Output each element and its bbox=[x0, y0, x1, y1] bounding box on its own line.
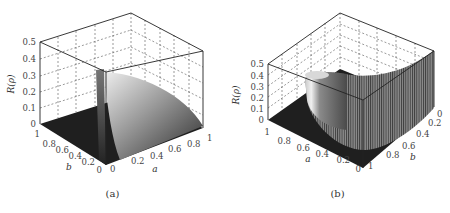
svg-text:0.2: 0.2 bbox=[250, 93, 264, 103]
plot-b: 0 0.1 0.2 0.3 0.4 0.5 R(ρ) 0 0.2 0.4 0.6… bbox=[225, 0, 450, 213]
a-label-a: a bbox=[152, 164, 157, 174]
svg-text:1: 1 bbox=[368, 161, 373, 171]
svg-text:1: 1 bbox=[35, 129, 40, 139]
caption-b: (b) bbox=[225, 188, 450, 199]
svg-text:0.1: 0.1 bbox=[22, 103, 36, 113]
svg-text:0.1: 0.1 bbox=[250, 104, 264, 114]
svg-text:0: 0 bbox=[31, 119, 36, 129]
z-ticks-a: 0 0.1 0.2 0.3 0.4 0.5 bbox=[22, 37, 36, 129]
svg-text:0.6: 0.6 bbox=[296, 143, 310, 153]
svg-text:0.5: 0.5 bbox=[250, 59, 264, 69]
svg-text:0.6: 0.6 bbox=[402, 141, 416, 151]
svg-text:0.8: 0.8 bbox=[187, 139, 201, 149]
panel-b: 0 0.1 0.2 0.3 0.4 0.5 R(ρ) 0 0.2 0.4 0.6… bbox=[225, 0, 450, 213]
svg-text:0.4: 0.4 bbox=[22, 54, 36, 64]
svg-text:0.8: 0.8 bbox=[386, 150, 400, 160]
z-label-a: R(ρ) bbox=[6, 74, 16, 95]
svg-text:0: 0 bbox=[97, 165, 102, 175]
svg-text:0.2: 0.2 bbox=[428, 118, 442, 128]
svg-text:0: 0 bbox=[356, 164, 361, 174]
svg-text:0: 0 bbox=[259, 115, 264, 125]
svg-text:0.2: 0.2 bbox=[131, 156, 145, 166]
a-label-b: a bbox=[305, 154, 310, 164]
svg-text:0: 0 bbox=[110, 164, 115, 174]
b-label-a: b bbox=[66, 162, 72, 172]
svg-text:0.4: 0.4 bbox=[250, 71, 264, 81]
svg-text:0.3: 0.3 bbox=[22, 71, 36, 81]
svg-text:0.4: 0.4 bbox=[315, 149, 329, 159]
svg-text:0.3: 0.3 bbox=[250, 82, 264, 92]
svg-text:0.4: 0.4 bbox=[68, 151, 82, 161]
svg-text:0.4: 0.4 bbox=[150, 151, 164, 161]
svg-text:0.6: 0.6 bbox=[55, 145, 69, 155]
svg-text:0.8: 0.8 bbox=[277, 136, 291, 146]
svg-text:0.6: 0.6 bbox=[168, 144, 182, 154]
plot-a: 0 0.1 0.2 0.3 0.4 0.5 R(ρ) 0 0.2 0.4 0.6… bbox=[0, 0, 225, 213]
svg-text:1: 1 bbox=[265, 127, 270, 137]
z-label-b: R(ρ) bbox=[231, 85, 241, 106]
svg-text:0.2: 0.2 bbox=[81, 157, 95, 167]
surface-b-top bbox=[305, 71, 329, 79]
b-label-b: b bbox=[410, 152, 416, 162]
svg-text:0.2: 0.2 bbox=[22, 87, 36, 97]
panel-a: 0 0.1 0.2 0.3 0.4 0.5 R(ρ) 0 0.2 0.4 0.6… bbox=[0, 0, 225, 213]
svg-text:1: 1 bbox=[207, 133, 212, 143]
svg-text:0.8: 0.8 bbox=[42, 139, 56, 149]
svg-text:0.5: 0.5 bbox=[22, 37, 36, 47]
svg-text:0.4: 0.4 bbox=[416, 129, 430, 139]
caption-a: (a) bbox=[0, 188, 225, 199]
svg-text:0.2: 0.2 bbox=[336, 155, 350, 165]
z-ticks-b: 0 0.1 0.2 0.3 0.4 0.5 bbox=[250, 59, 264, 125]
